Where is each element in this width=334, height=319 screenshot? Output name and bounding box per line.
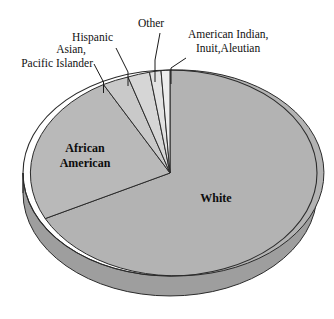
label-african-american-line1: African [65, 141, 105, 155]
label-asian-line1: Asian, [56, 43, 86, 56]
pie-slices [30, 70, 324, 276]
label-american-indian-line1: American Indian, [188, 28, 269, 41]
label-american-indian-line2: Inuit,Aleutian [196, 42, 260, 55]
label-asian-line2: Pacific Islander [21, 57, 93, 69]
label-hispanic: Hispanic [72, 31, 113, 44]
label-other: Other [138, 17, 164, 29]
pie-chart-figure: Asian, Pacific Islander Hispanic Other A… [0, 0, 334, 319]
label-african-american-line2: American [60, 156, 111, 170]
label-white: White [200, 191, 232, 205]
pie-chart-svg: Asian, Pacific Islander Hispanic Other A… [0, 0, 334, 319]
callout-labels: Asian, Pacific Islander Hispanic Other A… [21, 17, 268, 69]
